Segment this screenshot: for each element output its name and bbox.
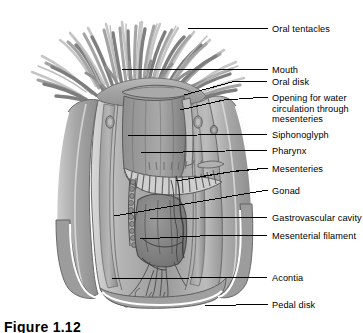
label-mesenterial-filament: Mesenterial filament (272, 231, 356, 242)
label-oral-tentacles: Oral tentacles (272, 24, 330, 35)
label-mouth: Mouth (272, 65, 298, 76)
anatomy-figure: Oral tentaclesMouthOral diskOpening for … (0, 0, 363, 333)
label-siphonoglyph: Siphonoglyph (272, 130, 329, 141)
label-oral-disk: Oral disk (272, 77, 309, 88)
label-pedal-disk: Pedal disk (272, 300, 315, 311)
label-opening-for-water: Opening for water circulation through me… (272, 93, 363, 125)
label-pharynx: Pharynx (272, 146, 306, 157)
label-acontia: Acontia (272, 273, 303, 284)
figure-caption: Figure 1.12 (4, 319, 81, 333)
label-mesenteries: Mesenteries (272, 164, 323, 175)
label-gonad: Gonad (272, 186, 300, 197)
label-gastrovascular-cavity: Gastrovascular cavity (272, 213, 362, 224)
